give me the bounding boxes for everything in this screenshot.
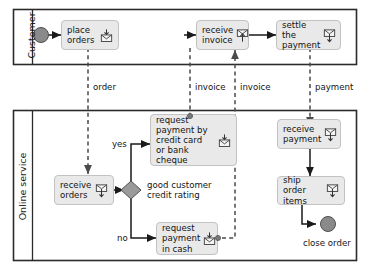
envelope-receive-icon: [235, 28, 250, 43]
action-receive-orders-label: receive orders: [60, 180, 92, 200]
pin-connector-invoice-card: [187, 113, 193, 119]
objectflow-label-payment: payment: [315, 82, 353, 92]
action-receive-invoice[interactable]: receive invoice: [196, 20, 249, 50]
lane-label-online-service: Online service: [17, 142, 28, 232]
action-receive-invoice-label: receive invoice: [202, 25, 233, 45]
envelope-receive-icon: [325, 183, 340, 198]
action-request-payment-cash[interactable]: request payment in cash: [156, 222, 218, 255]
pin-connector-invoice-cash: [215, 235, 221, 241]
envelope-send-icon: [217, 133, 232, 148]
objectflow-label-invoice-down: invoice: [195, 82, 226, 92]
final-node: [321, 217, 336, 232]
activity-diagram: Customer Online service place orders rec…: [0, 0, 370, 270]
objectflow-label-order: order: [93, 82, 116, 92]
decision-label: good customer credit rating: [147, 180, 212, 200]
lane-label-customer: Customer: [26, 6, 37, 66]
action-ship-order-items-label: ship order items: [283, 175, 323, 206]
action-receive-payment-label: receive payment: [283, 124, 321, 144]
objectflow-label-invoice-up: invoice: [240, 82, 271, 92]
action-receive-payment[interactable]: receive payment: [277, 119, 341, 149]
envelope-receive-icon: [323, 127, 338, 142]
action-request-payment-card-label: request payment by credit card or bank c…: [156, 115, 215, 166]
branch-label-yes: yes: [112, 139, 127, 149]
action-request-payment-card[interactable]: request payment by credit card or bank c…: [150, 114, 237, 166]
envelope-send-icon: [322, 28, 337, 43]
action-request-payment-cash-label: request payment in cash: [162, 223, 200, 254]
action-place-orders-label: place orders: [67, 25, 97, 45]
action-settle-payment-label: settle the payment: [282, 20, 320, 51]
envelope-send-icon: [99, 28, 114, 43]
action-place-orders[interactable]: place orders: [61, 20, 119, 50]
final-node-label: close order: [303, 238, 351, 248]
envelope-receive-icon: [94, 183, 109, 198]
action-settle-payment[interactable]: settle the payment: [276, 20, 341, 50]
action-receive-orders[interactable]: receive orders: [54, 175, 114, 205]
branch-label-no: no: [117, 233, 128, 243]
action-ship-order-items[interactable]: ship order items: [277, 176, 345, 205]
